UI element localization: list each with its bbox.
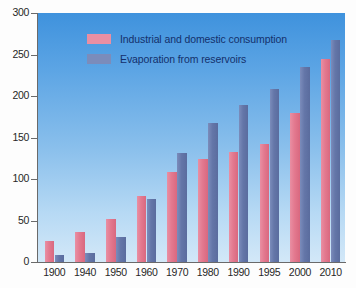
x-axis-label-1970: 1970	[160, 266, 194, 278]
x-axis-line	[37, 262, 346, 263]
legend-item-evaporation: Evaporation from reservoirs	[87, 51, 287, 67]
y-tick-300	[31, 13, 38, 14]
bar-chart: Industrial and domestic consumption Evap…	[0, 0, 356, 288]
y-tick-200	[31, 96, 38, 97]
bar-1980-series1	[198, 159, 208, 262]
x-axis-label-2010: 2010	[314, 266, 348, 278]
y-axis-label-0: 0	[0, 255, 29, 267]
plot-area: Industrial and domestic consumption Evap…	[38, 13, 345, 262]
x-axis-label-2000: 2000	[283, 266, 317, 278]
chart-legend: Industrial and domestic consumption Evap…	[87, 31, 287, 71]
y-tick-250	[31, 55, 38, 56]
legend-item-industrial: Industrial and domestic consumption	[87, 31, 287, 47]
y-tick-150	[31, 138, 38, 139]
y-tick-100	[31, 179, 38, 180]
legend-label-industrial: Industrial and domestic consumption	[120, 33, 287, 45]
x-axis-label-1950: 1950	[99, 266, 133, 278]
y-tick-0	[31, 262, 38, 263]
blue-swatch-icon	[87, 54, 111, 64]
bar-1960-series1	[137, 196, 147, 262]
bar-1940-series1	[75, 232, 85, 262]
bar-1990-series1	[229, 152, 239, 262]
x-axis-label-1995: 1995	[252, 266, 286, 278]
bar-1950-series1	[106, 219, 116, 262]
bar-2000-series1	[290, 113, 300, 262]
y-axis-label-50: 50	[0, 214, 29, 226]
legend-label-evaporation: Evaporation from reservoirs	[120, 53, 246, 65]
y-axis-label-200: 200	[0, 89, 29, 101]
x-axis-label-1940: 1940	[68, 266, 102, 278]
bar-1950-series2	[116, 237, 126, 262]
bar-2010-series2	[331, 40, 341, 262]
bar-1900-series2	[55, 255, 65, 262]
bar-1940-series2	[85, 253, 95, 262]
bar-1970-series2	[177, 153, 187, 262]
y-axis-label-250: 250	[0, 48, 29, 60]
bar-1900-series1	[45, 241, 55, 262]
x-axis-label-1960: 1960	[129, 266, 163, 278]
bar-1990-series2	[239, 105, 249, 262]
bar-2000-series2	[300, 67, 310, 262]
bar-1980-series2	[208, 123, 218, 262]
bar-1995-series2	[270, 89, 280, 262]
x-axis-label-1990: 1990	[222, 266, 256, 278]
y-axis-label-100: 100	[0, 172, 29, 184]
bar-1960-series2	[147, 199, 157, 262]
pink-swatch-icon	[87, 34, 111, 44]
x-axis-label-1900: 1900	[37, 266, 71, 278]
bar-1995-series1	[260, 144, 270, 262]
y-tick-50	[31, 221, 38, 222]
bar-1970-series1	[167, 172, 177, 262]
y-axis-label-300: 300	[0, 6, 29, 18]
x-axis-label-1980: 1980	[191, 266, 225, 278]
y-axis-label-150: 150	[0, 131, 29, 143]
bar-2010-series1	[321, 59, 331, 262]
